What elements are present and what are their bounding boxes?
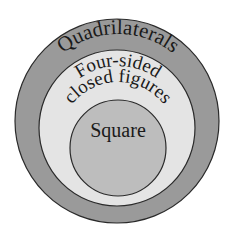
label-square: Square — [90, 119, 146, 142]
inner-circle-square — [70, 100, 166, 196]
nested-venn-diagram: Quadrilaterals Four-sided closed figures… — [0, 0, 233, 235]
